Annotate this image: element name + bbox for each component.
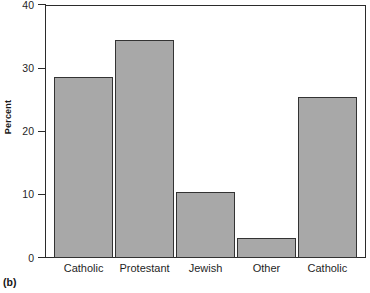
- y-tick-label-10: 10: [0, 189, 34, 200]
- x-category-label-catholic-2: Catholic: [282, 262, 370, 274]
- bars-layer: [45, 5, 366, 258]
- bar-chart-figure: Percent 40 30 20 10 0 Catholic Protestan…: [0, 0, 370, 293]
- y-tick-label-0: 0: [0, 253, 34, 264]
- y-tick-label-40: 40: [0, 0, 34, 10]
- y-tick-label-20: 20: [0, 126, 34, 137]
- bar-catholic-1: [54, 77, 113, 258]
- bar-protestant: [115, 40, 174, 258]
- bar-jewish: [176, 192, 235, 258]
- bar-other: [237, 238, 296, 258]
- bar-catholic-2: [298, 97, 357, 258]
- y-tick-label-30: 30: [0, 63, 34, 74]
- y-axis-title: Percent: [3, 87, 13, 147]
- panel-caption: (b): [3, 276, 16, 288]
